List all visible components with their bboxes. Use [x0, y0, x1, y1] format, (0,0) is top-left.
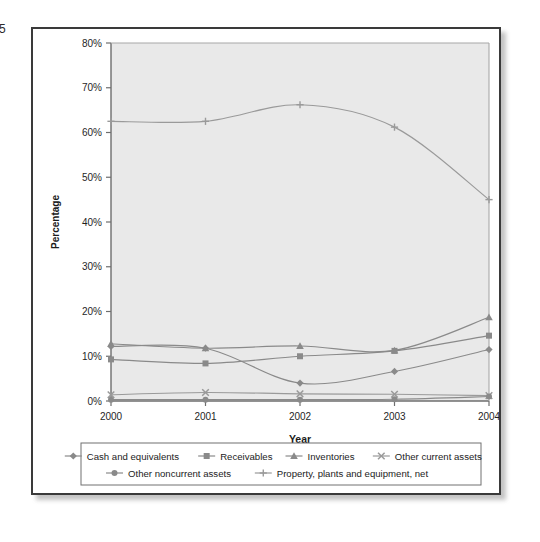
data-point-circle [112, 470, 118, 476]
data-point-square [297, 353, 303, 359]
figure-frame: 0%10%20%30%40%50%60%70%80%20002001200220… [31, 27, 501, 495]
legend-label: Other current assets [395, 451, 482, 462]
legend-label: Other noncurrent assets [128, 468, 231, 479]
data-point-circle [297, 397, 303, 403]
x-tick-label: 2000 [100, 411, 123, 422]
y-tick-label: 20% [82, 306, 102, 317]
page-number: 5 [0, 22, 6, 36]
data-point-circle [203, 397, 209, 403]
legend-item[interactable]: Property, plants and equipment, net [255, 468, 429, 479]
y-tick-label: 50% [82, 172, 102, 183]
data-point-square [204, 453, 210, 459]
line-chart: 0%10%20%30%40%50%60%70%80%20002001200220… [33, 29, 499, 493]
data-point-square [486, 333, 492, 339]
data-point-circle [108, 397, 114, 403]
data-point-square [108, 356, 114, 362]
x-tick-label: 2004 [478, 411, 499, 422]
y-tick-label: 30% [82, 261, 102, 272]
chart-canvas: 0%10%20%30%40%50%60%70%80%20002001200220… [33, 29, 499, 493]
data-point-circle [392, 396, 398, 402]
y-tick-label: 70% [82, 82, 102, 93]
x-tick-label: 2003 [383, 411, 406, 422]
x-tick-label: 2002 [289, 411, 312, 422]
legend-label: Receivables [220, 451, 272, 462]
legend-label: Property, plants and equipment, net [277, 468, 429, 479]
chart-legend: Cash and equivalentsReceivablesInventori… [65, 443, 482, 485]
x-tick-label: 2001 [194, 411, 217, 422]
data-point-diamond [70, 452, 77, 459]
y-axis-label: Percentage [50, 195, 61, 249]
legend-label: Inventories [308, 451, 355, 462]
y-tick-label: 10% [82, 351, 102, 362]
legend-box [81, 443, 481, 485]
y-tick-label: 0% [88, 396, 103, 407]
y-tick-label: 40% [82, 217, 102, 228]
legend-label: Cash and equivalents [87, 451, 179, 462]
data-point-square [203, 360, 209, 366]
y-tick-label: 80% [82, 38, 102, 49]
data-point-circle [486, 394, 492, 400]
y-tick-label: 60% [82, 127, 102, 138]
